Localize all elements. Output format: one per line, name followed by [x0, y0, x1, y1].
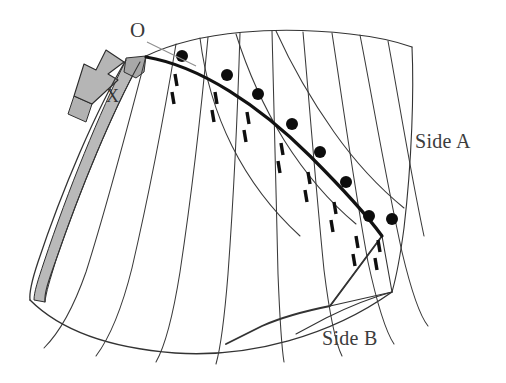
shaded-regions — [34, 50, 146, 302]
seam-dot-2 — [221, 69, 233, 81]
tick-mark-9 — [308, 172, 310, 184]
tick-mark-2 — [172, 92, 174, 104]
seam-dot-5 — [314, 146, 326, 158]
label-marker-x: X — [106, 87, 119, 105]
seam-dot-6 — [340, 176, 352, 188]
fold-triangle — [330, 236, 392, 306]
panel-line-5 — [272, 31, 284, 362]
tick-mark-12 — [331, 220, 333, 232]
seam-dot-8 — [386, 213, 398, 225]
tick-mark-4 — [212, 110, 214, 122]
inner-fan-group — [200, 31, 404, 236]
tick-mark-8 — [278, 161, 280, 173]
inner-fan-line-1 — [200, 38, 300, 236]
seam-dot-1 — [176, 50, 188, 62]
inner-fan-line-2 — [236, 34, 356, 224]
seam-dot-3 — [252, 88, 264, 100]
tick-mark-13 — [356, 236, 358, 248]
label-side-a: Side A — [415, 131, 471, 151]
tick-mark-10 — [305, 190, 307, 202]
tick-mark-7 — [281, 143, 283, 155]
diagram-svg — [0, 0, 506, 383]
seam-dot-group — [176, 50, 398, 225]
tick-mark-1 — [175, 74, 177, 86]
seam-curve — [146, 57, 382, 236]
label-side-b: Side B — [322, 328, 378, 348]
tick-mark-6 — [244, 130, 246, 142]
seam-dot-4 — [286, 118, 298, 130]
panel-line-3 — [156, 37, 208, 362]
tick-mark-11 — [334, 202, 336, 214]
tick-mark-14 — [353, 254, 355, 266]
tick-mark-16 — [375, 258, 377, 270]
tick-mark-3 — [215, 92, 217, 104]
tick-mark-15 — [378, 240, 380, 252]
label-origin-o: O — [130, 20, 145, 41]
diagram-canvas: O X Side A Side B — [0, 0, 506, 383]
tick-mark-5 — [247, 112, 249, 124]
panel-line-4 — [216, 33, 240, 364]
seam-dot-7 — [363, 210, 375, 222]
